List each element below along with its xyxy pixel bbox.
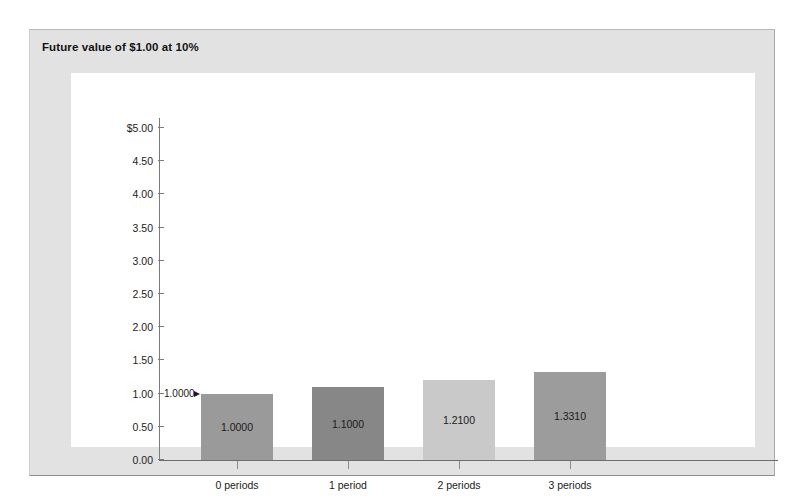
y-axis-tick-label: $5.00	[127, 122, 153, 134]
y-axis-tick: 0.50	[71, 421, 167, 433]
y-axis-tick-label: 3.00	[133, 255, 153, 267]
chart-title: Future value of $1.00 at 10%	[42, 41, 199, 53]
y-axis-tick: 0.00	[71, 454, 167, 466]
y-axis-tick: 2.50	[71, 288, 167, 300]
y-axis-tick-label: 1.50	[133, 354, 153, 366]
x-axis-tick-mark	[237, 461, 238, 469]
x-axis-tick-mark	[348, 461, 349, 469]
y-axis-tick-mark	[158, 260, 164, 261]
bar: 1.2100	[423, 380, 495, 460]
y-axis-tick: 1.50	[71, 354, 167, 366]
y-axis-tick-label: 4.00	[133, 188, 153, 200]
y-axis-tick-label: 0.50	[133, 421, 153, 433]
y-axis-tick: 3.00	[71, 255, 167, 267]
x-axis-tick-mark	[459, 461, 460, 469]
bar-value-label: 1.2100	[424, 414, 494, 426]
y-axis-tick-mark	[158, 326, 164, 327]
x-axis-line	[159, 460, 778, 461]
bar-value-label: 1.0000	[202, 421, 272, 433]
y-axis-tick: 3.50	[71, 222, 167, 234]
bar: 1.3310	[534, 372, 606, 460]
y-axis-tick: 2.00	[71, 321, 167, 333]
bar-value-label: 1.3310	[535, 410, 605, 422]
plot-area: $5.004.504.003.503.002.502.001.501.000.5…	[71, 73, 755, 447]
y-axis-tick: $5.00	[71, 122, 167, 134]
x-axis-category-label: 3 periods	[515, 479, 625, 491]
y-axis-tick-mark	[158, 459, 164, 460]
x-axis-category-label: 2 periods	[404, 479, 514, 491]
x-axis-category-label: 1 period	[293, 479, 403, 491]
y-axis-tick-label: 3.50	[133, 222, 153, 234]
y-axis-tick-label: 1.00	[133, 388, 153, 400]
y-axis-tick-label: 4.50	[133, 155, 153, 167]
callout-arrow-icon	[194, 391, 200, 397]
y-axis-tick-label: 2.50	[133, 288, 153, 300]
y-axis-tick: 4.00	[71, 188, 167, 200]
y-axis-tick-mark	[158, 359, 164, 360]
bar: 1.1000	[312, 387, 384, 460]
bar-callout-label: 1.0000	[164, 388, 195, 399]
x-axis-tick-mark	[570, 461, 571, 469]
y-axis-tick-mark	[158, 227, 164, 228]
y-axis-tick-mark	[158, 160, 164, 161]
chart-page: Future value of $1.00 at 10% $5.004.504.…	[0, 0, 802, 504]
bar: 1.0000	[201, 394, 273, 460]
y-axis-tick-mark	[158, 293, 164, 294]
y-axis-tick-label: 0.00	[133, 454, 153, 466]
bar-value-label: 1.1000	[313, 418, 383, 430]
exhibit-frame: Future value of $1.00 at 10% $5.004.504.…	[29, 29, 775, 476]
x-axis-category-label: 0 periods	[182, 479, 292, 491]
y-axis-tick: 4.50	[71, 155, 167, 167]
y-axis-tick-label: 2.00	[133, 321, 153, 333]
y-axis-tick-mark	[158, 193, 164, 194]
y-axis-tick: 1.00	[71, 388, 167, 400]
y-axis-tick-mark	[158, 426, 164, 427]
y-axis-tick-mark	[158, 127, 164, 128]
